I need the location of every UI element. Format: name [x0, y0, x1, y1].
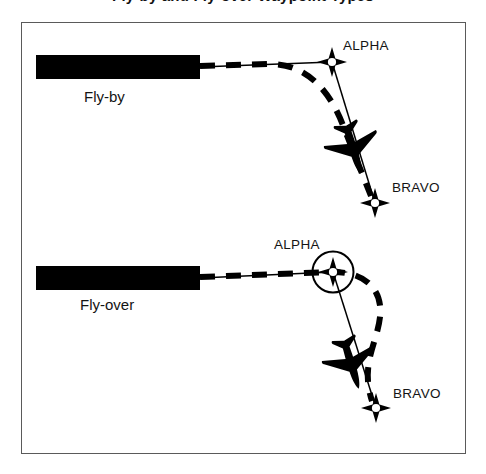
waypoint-label-bravo-fly-by: BRAVO [392, 180, 440, 195]
figure-title: Fly-by and Fly-over Waypoint Types [0, 0, 486, 4]
waypoint-label-alpha-fly-over: ALPHA [274, 237, 320, 252]
figure-root: Fly-by and Fly-over Waypoint Types [0, 0, 486, 474]
waypoint-label-bravo-fly-over: BRAVO [393, 386, 441, 401]
waypoint-label-alpha-fly-by: ALPHA [343, 38, 389, 53]
mode-label-fly-over: Fly-over [80, 296, 134, 313]
mode-label-fly-by: Fly-by [84, 88, 125, 105]
